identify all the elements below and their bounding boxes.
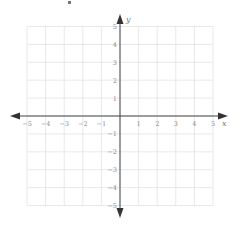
x-tick-label: −5: [22, 120, 32, 128]
x-axis-label: x: [222, 119, 227, 128]
x-tick-label: 5: [211, 120, 215, 128]
y-axis-up-arrow-icon: [117, 14, 124, 24]
y-tick-label: 2: [113, 77, 117, 85]
y-tick-label: −1: [107, 130, 117, 138]
x-tick-label: −2: [78, 120, 88, 128]
y-axis-down-arrow-icon: [117, 208, 124, 218]
y-tick-label: 5: [113, 23, 117, 31]
y-tick-label: −5: [107, 202, 117, 210]
y-tick-label: −3: [107, 166, 117, 174]
x-tick-label: 3: [174, 120, 178, 128]
x-tick-labels: −5−4−3−2−112345: [22, 120, 215, 128]
x-tick-label: −4: [41, 120, 51, 128]
x-tick-label: −1: [97, 120, 107, 128]
x-tick-label: 4: [192, 120, 196, 128]
x-axis-left-arrow-icon: [10, 113, 20, 120]
x-tick-label: 2: [155, 120, 159, 128]
coordinate-plane: y x −5−4−3−2−112345 54321−1−2−3−4−5: [0, 0, 240, 231]
y-tick-label: 3: [113, 59, 117, 67]
y-axis-label: y: [125, 15, 131, 24]
x-tick-label: −3: [59, 120, 69, 128]
y-tick-label: −4: [107, 184, 117, 192]
y-tick-label: 4: [113, 41, 117, 49]
x-tick-label: 1: [137, 120, 141, 128]
y-tick-label: −2: [107, 148, 117, 156]
y-tick-label: 1: [113, 95, 117, 103]
stray-mark: [68, 1, 71, 4]
